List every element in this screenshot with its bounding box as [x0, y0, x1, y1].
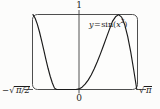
x-max-radical: √π: [139, 85, 152, 95]
origin-label: 0: [76, 94, 82, 103]
radical-bar-right: [144, 86, 153, 87]
x-min-radical: √π/2: [9, 85, 30, 95]
x-min-label: −√π/2: [2, 85, 30, 95]
equation-close-paren: ): [124, 20, 127, 29]
x-max-label: √π: [139, 85, 152, 95]
radical-bar-left: [14, 86, 31, 87]
x-min-minus-sign: −: [2, 85, 9, 95]
equation-sin-open: sin(: [101, 20, 116, 29]
equation-lhs: y: [89, 20, 94, 29]
figure-container: 1 0 −√π/2 √π y=sin(x2): [0, 0, 160, 109]
curve-equation-label: y=sin(x2): [89, 19, 127, 29]
y-max-label: 1: [76, 1, 82, 10]
